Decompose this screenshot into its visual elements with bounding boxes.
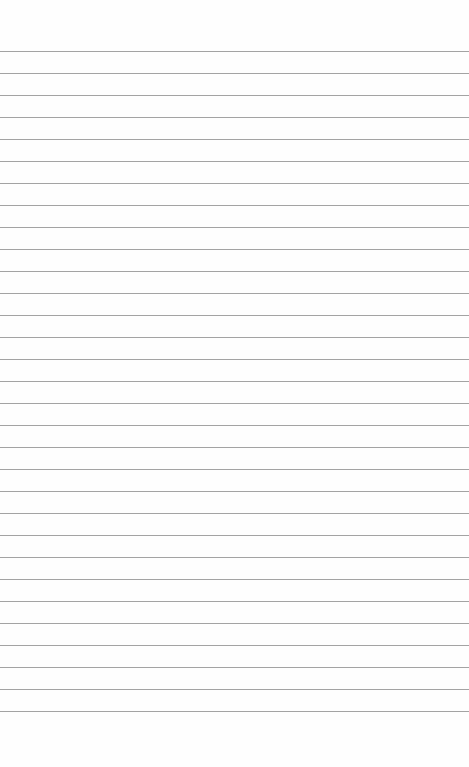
ruled-line (0, 249, 469, 250)
ruled-line (0, 183, 469, 184)
ruled-line (0, 337, 469, 338)
ruled-line (0, 139, 469, 140)
ruled-line (0, 117, 469, 118)
ruled-line (0, 403, 469, 404)
ruled-line (0, 469, 469, 470)
ruled-line (0, 293, 469, 294)
lined-paper-sheet (0, 0, 469, 767)
ruled-line (0, 161, 469, 162)
ruled-line (0, 557, 469, 558)
ruled-line (0, 711, 469, 712)
ruled-line (0, 513, 469, 514)
ruled-line (0, 73, 469, 74)
ruled-line (0, 315, 469, 316)
ruled-line (0, 645, 469, 646)
ruled-line (0, 425, 469, 426)
ruled-line (0, 51, 469, 52)
ruled-line (0, 535, 469, 536)
ruled-line (0, 447, 469, 448)
ruled-line (0, 667, 469, 668)
ruled-line (0, 95, 469, 96)
ruled-line (0, 359, 469, 360)
ruled-line (0, 271, 469, 272)
ruled-line (0, 491, 469, 492)
ruled-line (0, 601, 469, 602)
ruled-line (0, 381, 469, 382)
ruled-line (0, 227, 469, 228)
ruled-line (0, 205, 469, 206)
ruled-line (0, 689, 469, 690)
ruled-line (0, 623, 469, 624)
ruled-line (0, 579, 469, 580)
